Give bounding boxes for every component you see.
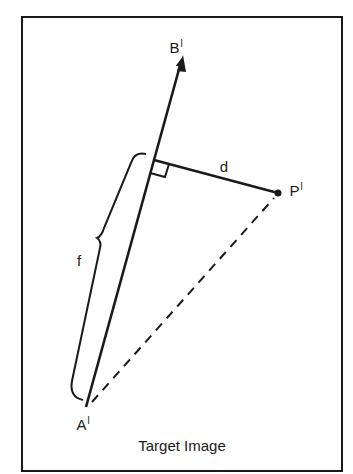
label-b: Bl bbox=[169, 38, 182, 56]
label-p: Pl bbox=[289, 181, 302, 199]
label-d: d bbox=[220, 158, 228, 175]
brace-f-icon bbox=[71, 153, 146, 400]
caption: Target Image bbox=[138, 437, 226, 454]
point-p bbox=[275, 190, 282, 197]
label-f: f bbox=[77, 252, 82, 269]
segment-d bbox=[154, 160, 278, 193]
target-image-diagram: Bl d Pl f Al Target Image bbox=[0, 0, 353, 474]
arrowhead-b-icon bbox=[177, 55, 186, 72]
label-a: Al bbox=[76, 415, 89, 433]
segment-a-to-p-dashed bbox=[92, 198, 274, 402]
